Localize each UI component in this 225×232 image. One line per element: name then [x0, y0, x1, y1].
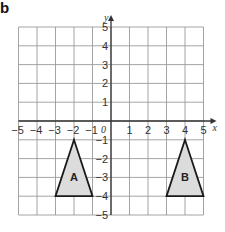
y-tick-label: −5 — [95, 209, 108, 221]
coordinate-grid: AB xy −5−4−3−2−11234554321−1−2−3−4−50 — [0, 0, 225, 232]
x-tick-label: 3 — [163, 124, 169, 136]
triangle-b — [167, 140, 204, 196]
x-tick-label: 1 — [126, 124, 132, 136]
y-tick-label: 3 — [102, 59, 108, 71]
y-axis-arrow-icon — [108, 15, 114, 21]
triangle-a — [56, 140, 93, 196]
x-tick-label: −4 — [30, 124, 43, 136]
y-tick-label: −3 — [95, 171, 108, 183]
triangle-label-a: A — [70, 171, 78, 183]
x-tick-label: −3 — [48, 124, 61, 136]
y-tick-label: 1 — [102, 96, 108, 108]
triangle-label-b: B — [181, 171, 189, 183]
y-tick-label: −4 — [95, 190, 108, 202]
y-tick-label: −2 — [95, 153, 108, 165]
origin-label: 0 — [101, 124, 106, 135]
x-tick-label: 4 — [182, 124, 188, 136]
y-tick-label: 4 — [102, 40, 108, 52]
x-tick-label: −2 — [67, 124, 80, 136]
x-tick-label: −5 — [11, 124, 24, 136]
x-tick-label: 5 — [200, 124, 206, 136]
y-tick-label: 2 — [102, 77, 108, 89]
y-tick-label: 5 — [102, 21, 108, 33]
x-axis-label: x — [212, 122, 218, 133]
y-tick-label: −1 — [95, 134, 108, 146]
x-tick-label: 2 — [145, 124, 151, 136]
